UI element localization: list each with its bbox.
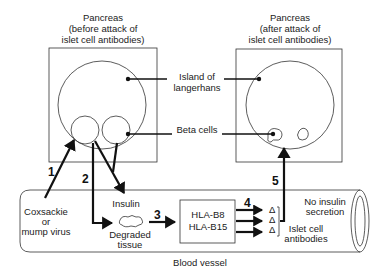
beta-cell-left (71, 116, 99, 144)
vessel-opening-outer (351, 190, 369, 252)
island-of-langerhans-damaged (246, 61, 334, 149)
hla-b8-label: HLA-B8 (191, 209, 224, 220)
antibodies-label-2: antibodies (284, 233, 328, 244)
beta-leader-dot-left (126, 132, 130, 136)
vessel-contents: Coxsackie or mump virus Insulin Degraded… (21, 196, 345, 250)
antibody-bracket (277, 207, 279, 236)
no-insulin-label-2: secretion (306, 206, 345, 217)
left-pancreas-title-1: Pancreas (83, 12, 123, 23)
vessel-opening-inner (355, 196, 365, 246)
right-pancreas-title-1: Pancreas (270, 12, 310, 23)
right-pancreas: Pancreas (after attack of islet cell ant… (236, 12, 342, 162)
island-label-2: langerhans (173, 82, 220, 93)
beta-leader-dot-right (271, 132, 275, 136)
step-3-label: 3 (154, 208, 161, 222)
beta-cell-right (102, 116, 130, 144)
right-pancreas-box (236, 49, 342, 162)
island-leader-dot-right (257, 77, 261, 81)
arrow-insulin (95, 141, 124, 193)
left-pancreas-title-3: islet cell antibodies) (62, 34, 145, 45)
step-4-label: 4 (244, 196, 251, 210)
damaged-beta-cell-left (268, 129, 282, 143)
insulin-label: Insulin (112, 198, 139, 209)
island-leader-dot-left (126, 77, 130, 81)
step-2-label: 2 (82, 172, 89, 186)
blood-vessel-label: Blood vessel (173, 257, 227, 268)
left-pancreas-title-2: (before attack of (69, 23, 138, 34)
left-pancreas: Pancreas (before attack of islet cell an… (49, 12, 157, 162)
antibody-glyph-3: Δ (269, 224, 276, 235)
damaged-beta-cell-right (298, 128, 309, 140)
beta-cells-label: Beta cells (176, 124, 217, 135)
left-pancreas-box (49, 48, 157, 162)
step-5-label: 5 (272, 174, 279, 188)
degraded-label-2: tissue (118, 239, 143, 250)
hla-b15-label: HLA-B15 (189, 221, 228, 232)
diabetes-pathway-diagram: Pancreas (before attack of islet cell an… (0, 0, 389, 274)
step-1-label: 1 (48, 165, 55, 179)
right-pancreas-title-2: (after attack of (260, 23, 321, 34)
vessel-left-end (20, 190, 30, 252)
pathway-arrows: 1 2 3 4 5 (45, 140, 284, 232)
degraded-tissue-icon (119, 216, 142, 227)
island-of-langerhans-healthy (58, 61, 146, 149)
right-pancreas-title-3: islet cell antibodies) (249, 34, 332, 45)
virus-label-3: mump virus (21, 226, 70, 237)
arrow-step-5 (280, 148, 284, 221)
island-label-1: Island of (179, 71, 215, 82)
